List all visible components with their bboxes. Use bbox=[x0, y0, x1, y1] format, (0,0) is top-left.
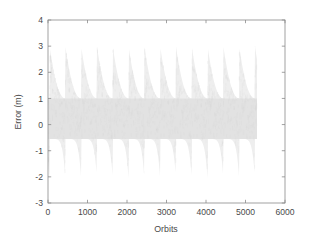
x-axis-label: Orbits bbox=[154, 224, 178, 234]
y-tick-label: -1 bbox=[35, 146, 43, 156]
y-tick-label: 4 bbox=[38, 15, 43, 25]
error-core-band-fill bbox=[48, 98, 257, 139]
x-tick-label: 2000 bbox=[117, 207, 136, 217]
x-tick-label: 3000 bbox=[157, 207, 176, 217]
y-tick-label: -3 bbox=[35, 198, 43, 208]
x-tick-label: 4000 bbox=[196, 207, 215, 217]
error-vs-orbits-scatter-plot: 0100020003000400050006000 -3-2-101234 Or… bbox=[0, 0, 309, 244]
figure-canvas: 0100020003000400050006000 -3-2-101234 Or… bbox=[0, 0, 309, 244]
y-axis-label: Error (m) bbox=[13, 94, 23, 129]
x-tick-label: 0 bbox=[46, 207, 51, 217]
x-tick-label: 5000 bbox=[236, 207, 255, 217]
y-tick-label: 0 bbox=[38, 120, 43, 130]
x-tick-label: 1000 bbox=[78, 207, 97, 217]
y-tick-label: 2 bbox=[38, 67, 43, 77]
y-tick-label: -2 bbox=[35, 172, 43, 182]
y-tick-label: 3 bbox=[38, 41, 43, 51]
x-tick-label: 6000 bbox=[275, 207, 294, 217]
y-tick-label: 1 bbox=[38, 94, 43, 104]
